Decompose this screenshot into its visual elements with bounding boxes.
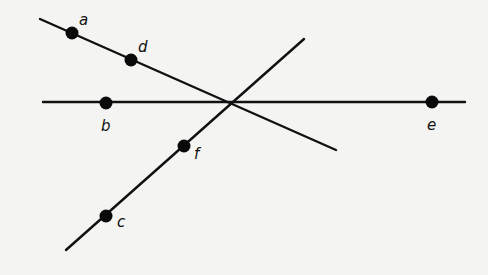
geometry-diagram: a d b e f c xyxy=(0,0,488,275)
point-e-dot xyxy=(426,96,439,109)
point-c-label: c xyxy=(117,213,126,231)
point-a-dot xyxy=(66,27,79,40)
background xyxy=(0,0,488,275)
point-a-label: a xyxy=(79,11,88,29)
point-f-dot xyxy=(178,140,191,153)
point-d-dot xyxy=(125,54,138,67)
point-b-dot xyxy=(100,97,113,110)
point-d-label: d xyxy=(138,38,148,56)
point-c-dot xyxy=(100,210,113,223)
point-e-label: e xyxy=(427,116,436,134)
point-b-label: b xyxy=(101,117,111,135)
